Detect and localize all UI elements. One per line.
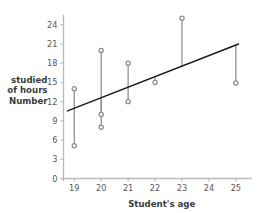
x-tick-label-24: 24 [204,183,214,193]
regression-line [68,44,239,111]
x-tick-label-20: 20 [96,183,106,193]
data-point-5 [126,61,130,65]
x-tick-label-21: 21 [123,183,133,193]
data-point-3 [99,112,103,116]
x-tick-label-19: 19 [69,183,79,193]
data-point-6 [126,100,130,104]
y-axis-title-line-1: of hours [7,85,47,95]
data-point-0 [72,87,76,91]
y-tick-label-0: 0 [52,174,57,184]
y-tick-label-18: 18 [47,58,57,68]
x-axis-title: Student's age [128,199,195,209]
data-point-2 [99,48,103,52]
y-tick-label-6: 6 [52,135,57,145]
chart-canvas: 0369121518212419202122232425Student's ag… [0,0,258,213]
y-tick-label-9: 9 [52,116,57,126]
data-point-9 [234,81,238,85]
x-tick-label-25: 25 [231,183,241,193]
y-tick-label-12: 12 [47,97,57,107]
y-tick-label-3: 3 [52,154,57,164]
data-point-4 [99,125,103,129]
x-tick-label-22: 22 [150,183,160,193]
data-point-1 [72,144,76,148]
y-axis-title-line-2: studied [11,75,47,85]
data-point-8 [180,16,184,20]
data-point-7 [153,80,157,84]
y-axis-title-line-0: Number [9,96,48,106]
scatter-plot-figure: 0369121518212419202122232425Student's ag… [0,0,258,213]
y-tick-label-24: 24 [47,20,57,30]
y-tick-label-21: 21 [47,39,57,49]
x-tick-label-23: 23 [177,183,187,193]
y-tick-label-15: 15 [47,77,57,87]
